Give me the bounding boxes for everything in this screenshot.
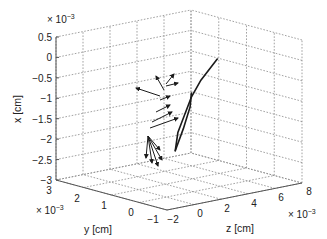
- vector-arrows: [136, 74, 178, 166]
- vector-arrow: [146, 136, 148, 158]
- x-tick: −0.5: [32, 73, 52, 84]
- vector-arrow: [136, 88, 160, 96]
- svg-text:× 10−3: × 10−3: [288, 208, 316, 220]
- y-tick: −1: [147, 214, 159, 225]
- y-tick: 2: [74, 193, 80, 204]
- vector-arrow: [152, 112, 172, 122]
- z-tick: 6: [278, 192, 284, 203]
- y-tick: 1: [101, 200, 107, 211]
- z-tick: 8: [306, 186, 312, 197]
- z-tick: 2: [224, 203, 230, 214]
- x-axis-tick-labels: 0.5 0 −0.5 −1 −1.5 −2 −2.5 −3: [32, 32, 52, 186]
- x-exponent-label: × 10−3: [47, 13, 75, 25]
- vector-arrow: [160, 96, 170, 100]
- x-tick: 0: [46, 52, 52, 63]
- x-tick: −2.5: [32, 155, 52, 166]
- grid-lines: [56, 10, 302, 210]
- y-tick: 0: [128, 207, 134, 218]
- y-axis-label: y [cm]: [84, 223, 112, 235]
- x-axis-label: x [cm]: [11, 95, 23, 123]
- z-axis-label: z [cm]: [226, 222, 254, 234]
- x-tick: −1: [41, 93, 53, 104]
- vector-arrow: [156, 105, 170, 112]
- svg-text:× 10−3: × 10−3: [47, 13, 75, 25]
- svg-text:× 10−3: × 10−3: [36, 204, 64, 216]
- vector-arrow: [156, 76, 164, 90]
- z-exponent-label: × 10−3: [288, 208, 316, 220]
- x-tick: −1.5: [32, 114, 52, 125]
- 3d-trajectory-plot: 0.5 0 −0.5 −1 −1.5 −2 −2.5 −3 3 2 1 0 −1…: [0, 0, 327, 239]
- z-tick: 0: [197, 208, 203, 219]
- x-tick: −2: [41, 134, 53, 145]
- y-exponent-label: × 10−3: [36, 204, 64, 216]
- z-tick: 4: [251, 198, 257, 209]
- x-tick: 0.5: [38, 32, 52, 43]
- axis-lines: [56, 37, 302, 210]
- z-tick: −2: [167, 214, 179, 225]
- vector-arrow: [166, 83, 178, 86]
- y-tick: 3: [46, 185, 52, 196]
